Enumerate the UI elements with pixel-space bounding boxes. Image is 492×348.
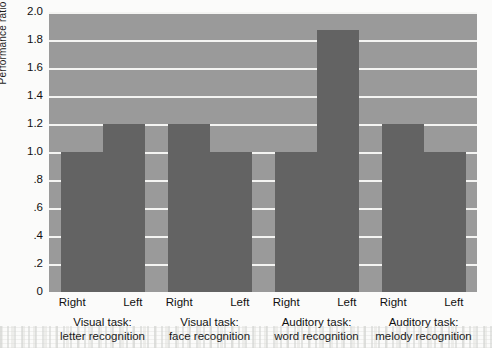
y-axis-tick-label: .2 <box>0 258 43 270</box>
side-label-row: RightLeft <box>42 296 163 309</box>
side-label-right: Right <box>363 296 424 309</box>
side-label-right: Right <box>149 296 210 309</box>
plot-area <box>49 12 477 292</box>
bar-melody-right <box>382 124 424 292</box>
y-axis-tick-label: .4 <box>0 230 43 242</box>
gridline <box>49 68 477 70</box>
x-axis-group: RightLeftAuditory task: word recognition <box>256 296 377 343</box>
x-axis-group: RightLeftAuditory task: melody recogniti… <box>363 296 484 343</box>
bar-word-left <box>317 30 359 292</box>
y-axis-tick-label: .8 <box>0 174 43 186</box>
x-axis-group: RightLeftVisual task: face recognition <box>149 296 270 343</box>
bar-melody-left <box>424 152 466 292</box>
side-label-row: RightLeft <box>149 296 270 309</box>
bar-chart-figure: 2.01.81.61.41.21.0.8.6.4.20 Performance … <box>0 0 492 348</box>
group-title: Auditory task: melody recognition <box>363 315 484 343</box>
bar-letter-right <box>61 152 103 292</box>
bar-face-left <box>210 152 252 292</box>
gridline <box>49 12 477 14</box>
group-title: Visual task: face recognition <box>149 315 270 343</box>
y-axis-tick-label: .6 <box>0 202 43 214</box>
group-title: Visual task: letter recognition <box>42 315 163 343</box>
y-axis-tick-label: 1.0 <box>0 146 43 158</box>
gridline <box>49 96 477 98</box>
y-axis-title: Performance ratio <box>0 0 8 123</box>
bar-face-right <box>168 124 210 292</box>
side-label-row: RightLeft <box>363 296 484 309</box>
gridline <box>49 40 477 42</box>
side-label-right: Right <box>256 296 317 309</box>
bar-word-right <box>275 152 317 292</box>
bar-letter-left <box>103 124 145 292</box>
side-label-left: Left <box>424 296 485 309</box>
x-axis-group: RightLeftVisual task: letter recognition <box>42 296 163 343</box>
side-label-right: Right <box>42 296 103 309</box>
side-label-row: RightLeft <box>256 296 377 309</box>
group-title: Auditory task: word recognition <box>256 315 377 343</box>
y-axis-tick-label: 0 <box>0 286 43 298</box>
